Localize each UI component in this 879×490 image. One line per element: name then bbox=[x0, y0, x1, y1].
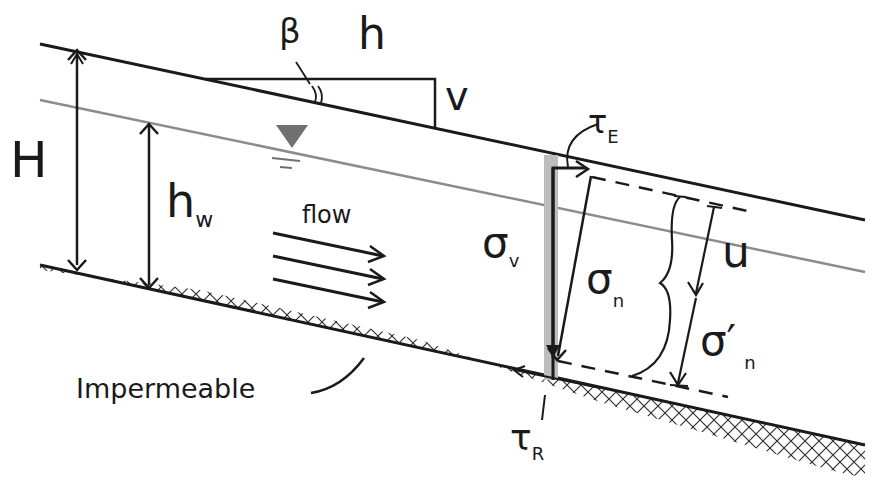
tau-E-subscript: E bbox=[607, 126, 618, 147]
water-table-symbol-icon bbox=[272, 125, 308, 168]
top-dashed-line bbox=[592, 177, 752, 212]
sigma-n-subscript: n bbox=[613, 290, 624, 311]
sigma-n-main: σ bbox=[586, 254, 613, 303]
hw-subscript: w bbox=[195, 207, 213, 232]
h-label: h bbox=[358, 12, 386, 56]
sigma-n-effective-main: σ′ bbox=[700, 316, 736, 365]
impermeable-base-hatching bbox=[40, 265, 865, 478]
tau-R-main: τ bbox=[510, 417, 532, 458]
hw-main: h bbox=[166, 174, 195, 228]
tau-R-label: τR bbox=[510, 420, 544, 456]
beta-label: β bbox=[279, 14, 301, 48]
tau-R-subscript: R bbox=[532, 443, 545, 464]
soil-column-strip bbox=[544, 155, 558, 380]
slope-ratio-triangle bbox=[205, 62, 435, 127]
tau-E-label: τE bbox=[588, 106, 619, 138]
impermeable-leader bbox=[311, 358, 364, 393]
flow-label: flow bbox=[302, 203, 351, 227]
u-label: u bbox=[722, 230, 750, 274]
impermeable-label: Impermeable bbox=[76, 375, 255, 402]
u-arrow bbox=[696, 207, 714, 293]
ground-surface-line bbox=[40, 44, 865, 220]
sigma-v-label: σv bbox=[482, 222, 519, 264]
tau-E-main: τ bbox=[588, 103, 607, 141]
sigma-n-label: σn bbox=[586, 258, 624, 300]
sigma-v-main: σ bbox=[482, 218, 509, 267]
sigma-n-effective-label: σ′n bbox=[700, 320, 756, 362]
v-label: v bbox=[445, 76, 469, 116]
hw-label: hw bbox=[166, 178, 213, 224]
H-label: H bbox=[10, 135, 48, 185]
sigma-n-effective-arrow bbox=[678, 298, 696, 383]
flow-arrows bbox=[273, 233, 384, 308]
sigma-v-subscript: v bbox=[509, 250, 520, 271]
sigma-n-effective-subscript: n bbox=[744, 352, 755, 373]
